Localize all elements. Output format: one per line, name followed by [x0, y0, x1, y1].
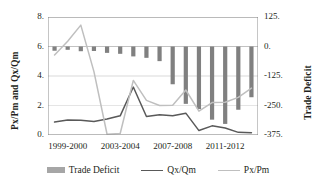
y-axis-left-tick-label: 4.: [18, 70, 44, 80]
y-axis-right-tick-label: 125.: [264, 11, 294, 21]
y-axis-right-tick-label: -250.: [264, 100, 294, 110]
bar: [184, 47, 188, 104]
x-axis-tick-label: 1999-2000: [40, 141, 96, 151]
bar: [171, 47, 175, 85]
bar: [118, 47, 122, 54]
legend-line-swatch-icon: [141, 170, 163, 171]
legend-label: Trade Deficit: [69, 165, 120, 175]
bar: [197, 47, 201, 110]
y-axis-left-tick-label: 0.: [18, 129, 44, 139]
y-axis-right-title: Trade Deficit: [303, 65, 313, 120]
bar: [52, 47, 56, 51]
bar: [92, 47, 96, 51]
line-series: [55, 87, 252, 133]
legend-item[interactable]: Qx/Qm: [141, 165, 196, 175]
y-axis-left-tick-label: 8.: [18, 11, 44, 21]
x-axis-tick-label: 2003-2004: [92, 141, 148, 151]
y-axis-left-title: Px/Pm and Qx/Qm: [10, 51, 20, 130]
y-axis-left-tick-label: 6.: [18, 41, 44, 51]
chart-legend: Trade DeficitQx/QmPx/Pm: [0, 160, 316, 180]
bar: [236, 47, 240, 110]
legend-bar-swatch-icon: [47, 167, 65, 173]
legend-line-swatch-light-icon: [218, 170, 240, 171]
legend-label: Px/Pm: [244, 165, 269, 175]
x-axis-tick-label: 2007-2008: [145, 141, 201, 151]
y-axis-right-tick-label: -125.: [264, 70, 294, 80]
bar: [210, 47, 214, 120]
legend-item[interactable]: Trade Deficit: [47, 165, 120, 175]
chart-canvas: [48, 17, 258, 135]
chart-figure: Px/Pm and Qx/Qm Trade Deficit 0.2.4.6.8.…: [0, 0, 316, 188]
bar: [79, 47, 83, 52]
line-series: [55, 25, 252, 134]
x-axis-tick-label: 2011-2012: [197, 141, 253, 151]
bar: [105, 47, 109, 53]
bar: [131, 47, 135, 57]
bar: [66, 47, 70, 50]
y-axis-right-tick-label: 0.: [264, 41, 294, 51]
legend-item[interactable]: Px/Pm: [218, 165, 269, 175]
legend-label: Qx/Qm: [167, 165, 196, 175]
bar: [223, 47, 227, 124]
plot-area: [48, 17, 258, 135]
bar: [157, 47, 161, 62]
bar: [144, 47, 148, 58]
y-axis-left-tick-label: 2.: [18, 100, 44, 110]
y-axis-right-tick-label: -375.: [264, 129, 294, 139]
